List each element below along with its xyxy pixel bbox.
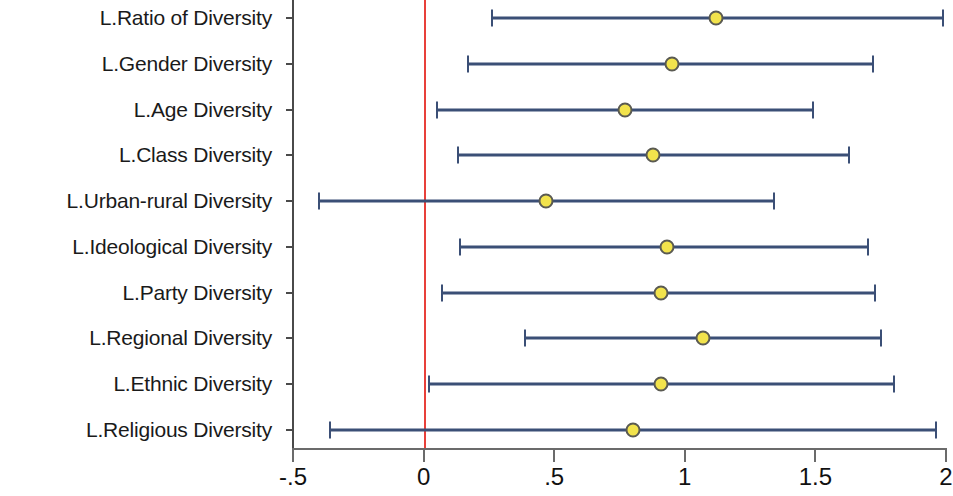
- coefficient-plot: L.Ratio of DiversityL.Gender DiversityL.…: [0, 0, 953, 496]
- x-axis-tick: [684, 450, 686, 462]
- interval-upper-cap: [867, 238, 869, 255]
- x-axis-tick-label: -.5: [279, 463, 307, 491]
- x-axis-tick-label: 1.5: [799, 463, 832, 491]
- estimate-marker: [696, 331, 711, 346]
- estimate-marker: [654, 285, 669, 300]
- estimate-marker: [646, 148, 661, 163]
- interval-lower-cap: [457, 147, 459, 164]
- interval-lower-cap: [428, 376, 430, 393]
- interval-lower-cap: [467, 55, 469, 72]
- y-axis-label: L.Gender Diversity: [102, 52, 272, 76]
- interval-upper-cap: [812, 101, 814, 118]
- interval-upper-cap: [874, 284, 876, 301]
- interval-upper-cap: [848, 147, 850, 164]
- interval-lower-cap: [329, 422, 331, 439]
- interval-lower-cap: [524, 330, 526, 347]
- estimate-marker: [625, 423, 640, 438]
- interval-upper-cap: [773, 193, 775, 210]
- interval-upper-cap: [935, 422, 937, 439]
- y-axis-labels: L.Ratio of DiversityL.Gender DiversityL.…: [0, 0, 286, 448]
- y-axis-label: L.Party Diversity: [123, 281, 272, 305]
- estimate-marker: [654, 377, 669, 392]
- estimate-marker: [664, 56, 679, 71]
- estimate-marker: [539, 194, 554, 209]
- estimate-marker: [617, 102, 632, 117]
- interval-upper-cap: [872, 55, 874, 72]
- y-axis-label: L.Religious Diversity: [86, 418, 272, 442]
- x-axis-tick: [292, 450, 294, 462]
- estimate-marker: [709, 11, 724, 26]
- y-axis-label: L.Regional Diversity: [89, 326, 272, 350]
- x-axis-tick: [423, 450, 425, 462]
- y-axis-label: L.Ratio of Diversity: [100, 6, 272, 30]
- interval-upper-cap: [880, 330, 882, 347]
- y-axis-label: L.Class Diversity: [119, 143, 272, 167]
- interval-lower-cap: [491, 10, 493, 27]
- interval-upper-cap: [893, 376, 895, 393]
- estimate-marker: [659, 239, 674, 254]
- zero-reference-line: [424, 0, 426, 448]
- interval-upper-cap: [942, 10, 944, 27]
- x-axis-line: [292, 448, 947, 450]
- y-axis-label: L.Age Diversity: [134, 98, 272, 122]
- y-axis-label: L.Ethnic Diversity: [113, 372, 272, 396]
- x-axis-tick-label: .5: [544, 463, 564, 491]
- interval-lower-cap: [459, 238, 461, 255]
- interval-lower-cap: [436, 101, 438, 118]
- x-axis-tick: [945, 450, 947, 462]
- x-axis-tick: [553, 450, 555, 462]
- y-axis-label: L.Ideological Diversity: [72, 235, 272, 259]
- x-axis-tick-label: 0: [417, 463, 430, 491]
- interval-lower-cap: [441, 284, 443, 301]
- x-axis-tick-label: 1: [678, 463, 691, 491]
- plot-area: [293, 0, 946, 448]
- y-axis-label: L.Urban-rural Diversity: [67, 189, 272, 213]
- interval-lower-cap: [318, 193, 320, 210]
- x-axis-tick: [814, 450, 816, 462]
- x-axis-tick-label: 2: [939, 463, 952, 491]
